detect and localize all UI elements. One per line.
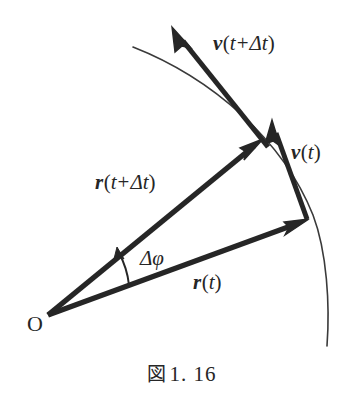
label-position-later-plus: + [117,170,131,194]
label-velocity-later-paren-close: ) [268,31,275,55]
label-position-later-paren-close: ) [149,170,156,194]
label-position-now-symbol: r [193,270,202,294]
label-velocity-now-paren-open: ( [301,140,308,164]
label-position-later-paren-open: ( [104,170,111,194]
label-origin: O [27,313,43,335]
label-velocity-later-delta: Δ [250,31,262,55]
position-vector-r-t-plus-dt [48,139,263,315]
label-velocity-later-paren-open: ( [223,31,230,55]
label-position-now-paren-open: ( [202,270,209,294]
label-angle-symbol: φ [152,246,164,270]
label-position-t: r(t) [193,272,222,293]
label-velocity-later-arg: t [230,31,236,55]
figure-container: v(t+Δt) v(t) r(t+Δt) r(t) Δφ O 図1. 16 [0,0,363,408]
label-velocity-t-plus-delta-t: v(t+Δt) [213,33,275,54]
label-position-later-arg: t [111,170,117,194]
label-position-later-delta: Δ [130,170,142,194]
label-angle-delta: Δ [140,246,152,270]
position-vector-r-t [48,219,309,315]
figure-caption-kanji: 図 [147,363,170,385]
label-velocity-now-symbol: v [291,140,301,164]
label-velocity-later-plus: + [236,31,250,55]
figure-caption-number: 1. 16 [170,362,217,386]
label-velocity-t: v(t) [291,142,321,163]
figure-caption: 図1. 16 [0,359,363,387]
velocity-vector-v-t [265,120,307,219]
label-position-t-plus-delta-t: r(t+Δt) [95,172,156,193]
label-position-now-paren-close: ) [215,270,222,294]
vector-diagram-canvas [0,0,363,408]
label-velocity-later-symbol: v [213,31,223,55]
label-velocity-now-paren-close: ) [314,140,321,164]
label-delta-phi: Δφ [140,248,164,269]
label-position-later-symbol: r [95,170,104,194]
